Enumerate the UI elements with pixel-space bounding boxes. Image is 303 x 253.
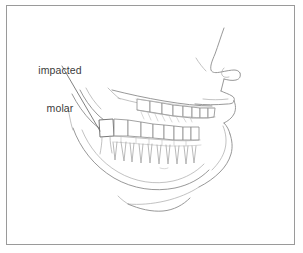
lower-tooth [153,124,164,139]
annotation-label-line-1: impacted [14,64,106,77]
lower-tooth [114,119,128,136]
lower-tooth [174,126,183,140]
lower-tooth [164,125,174,140]
tooth-root [157,145,161,164]
tooth-root [139,144,143,163]
philtrum-path [221,79,224,91]
mouth-line-path [195,101,234,105]
tooth-root [121,142,126,161]
lower-tooth [191,127,199,140]
nostril-icon [222,68,229,77]
upper-tooth [150,101,162,114]
maxillary-tuberosity-path [108,88,120,99]
lower-tooth [128,120,141,137]
palate-hatch [169,116,172,122]
submental-crease-path [118,196,130,205]
cheek-crease-path [196,58,206,71]
palate-hatch [162,115,165,121]
upper-tooth [183,106,192,118]
tooth-root [166,145,170,164]
lower-tooth [183,127,191,140]
impacted-molar-annotation: impacted molar [14,39,106,139]
tooth-root [130,143,134,162]
chin-inner-contour-path [212,126,226,170]
lower-tooth [141,122,153,138]
upper-tooth [192,107,200,118]
mental-foramen-path [160,168,168,169]
palate-hatch [183,117,186,122]
figure-root: impacted molar [0,0,303,253]
upper-teeth-group [136,99,215,118]
palate-hatch [148,113,151,120]
tooth-root [184,146,188,164]
palate-hatch [155,114,158,121]
nose-tip-underside-path [224,73,240,80]
upper-tooth [173,105,183,117]
lower-teeth-group [99,119,201,164]
lower-alveolar-crest-path [114,142,201,146]
annotation-label-line-2: molar [14,102,106,115]
nose-profile-path [211,28,240,73]
tooth-root [192,146,196,163]
upper-lip-inner-path [203,99,228,100]
chin-profile-path [199,134,232,187]
palate-hatch [141,112,144,119]
tooth-root [148,144,152,163]
tooth-root [113,142,117,160]
tooth-root [175,146,179,164]
face-profile-group [118,28,240,211]
upper-tooth [208,108,215,118]
upper-tooth [200,108,208,118]
upper-tooth [162,103,173,116]
